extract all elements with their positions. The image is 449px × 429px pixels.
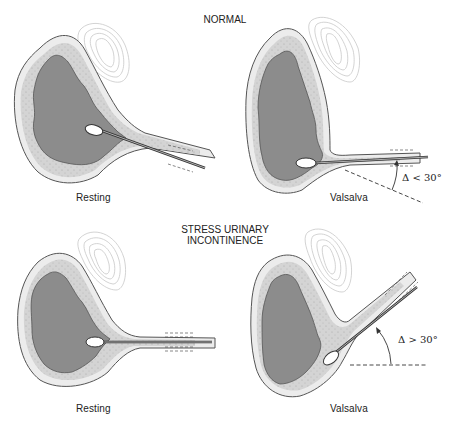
panel-normal-resting xyxy=(14,23,215,183)
panel-label-sui-valsalva: Valsalva xyxy=(330,403,368,414)
panel-sui-resting xyxy=(18,232,215,386)
panel-normal-valsalva xyxy=(246,17,428,203)
section-title-sui-line2: INCONTINENCE xyxy=(160,235,290,246)
section-title-normal: NORMAL xyxy=(180,14,270,25)
panel-label-normal-resting: Resting xyxy=(76,192,111,203)
angle-annotation-sui: Δ > 30° xyxy=(398,334,438,345)
section-title-sui: STRESS URINARY INCONTINENCE xyxy=(160,224,290,246)
panel-label-sui-resting: Resting xyxy=(76,403,111,414)
foley-balloon xyxy=(296,158,316,168)
angle-annotation-normal: Δ < 30° xyxy=(402,172,442,183)
panel-sui-valsalva xyxy=(251,229,428,397)
foley-balloon xyxy=(86,337,104,347)
diagram-canvas xyxy=(0,0,449,429)
panel-label-normal-valsalva: Valsalva xyxy=(330,192,368,203)
section-title-sui-line1: STRESS URINARY xyxy=(160,224,290,235)
